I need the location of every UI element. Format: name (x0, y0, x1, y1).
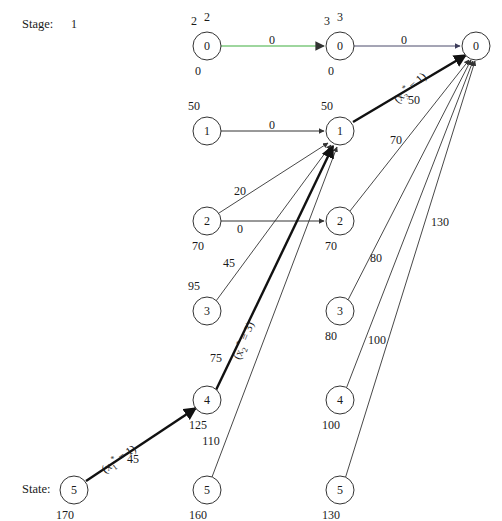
edge-weight-label: 70 (390, 134, 402, 146)
node-label: 3 (204, 304, 210, 319)
edge-weight-label: 100 (368, 334, 386, 346)
edge-weight-label: 0 (401, 34, 407, 46)
node-value-below: 0 (195, 65, 201, 77)
node-value-below: 80 (325, 330, 337, 342)
edge-weight-label: 75 (210, 352, 222, 364)
node-value-below: 130 (322, 509, 340, 521)
edge-3-to-1 (216, 145, 331, 301)
node-value-below: 125 (189, 419, 207, 431)
edge-weight-label: 20 (234, 185, 246, 197)
node-label: 0 (473, 39, 479, 54)
node-value-above: 95 (188, 280, 200, 292)
node-value-below: 0 (328, 65, 334, 77)
node-value-below: 70 (325, 240, 337, 252)
node-value-below: 70 (192, 240, 204, 252)
edge-weight-label: 0 (269, 34, 275, 46)
node-value-above: 2 (191, 15, 197, 27)
node-label: 5 (204, 483, 210, 498)
stage-axis-label: Stage: (22, 18, 53, 31)
edge-5-to-1 (212, 147, 337, 477)
stage-number-3: 3 (337, 11, 343, 23)
stage-number-2: 2 (204, 11, 210, 23)
node-value-below: 170 (56, 509, 74, 521)
edge-2-to-1 (219, 143, 328, 213)
node-label: 4 (204, 393, 210, 408)
node-label: 2 (337, 214, 343, 229)
node-label: 1 (204, 124, 210, 139)
diagram-canvas: Stage: State: 1 2 3 02015027039541255170… (0, 0, 502, 521)
edge-4-to-0 (346, 61, 473, 389)
edge-weight-label: 80 (370, 252, 382, 264)
edge-weight-label: 0 (237, 223, 243, 235)
state-axis-label: State: (22, 483, 50, 496)
edge-weight-label: 110 (202, 435, 220, 447)
node-value-above: 3 (324, 15, 330, 27)
edge-group-optimal (86, 55, 466, 481)
node-label: 0 (337, 39, 343, 54)
node-value-above: 50 (188, 100, 200, 112)
node-value-below: 160 (189, 509, 207, 521)
node-label: 5 (71, 483, 77, 498)
node-label: 0 (204, 39, 210, 54)
node-value-above: 50 (321, 100, 333, 112)
stage-number-1: 1 (71, 18, 77, 30)
node-label: 1 (337, 124, 343, 139)
node-label: 4 (337, 393, 343, 408)
node-label: 2 (204, 214, 210, 229)
node-label: 3 (337, 304, 343, 319)
edge-weight-label: 130 (431, 216, 449, 228)
node-label: 5 (337, 483, 343, 498)
node-value-below: 100 (322, 419, 340, 431)
edge-5-to-0 (345, 61, 475, 479)
edge-weight-label: 45 (223, 257, 235, 269)
edge-weight-label: 0 (269, 119, 275, 131)
